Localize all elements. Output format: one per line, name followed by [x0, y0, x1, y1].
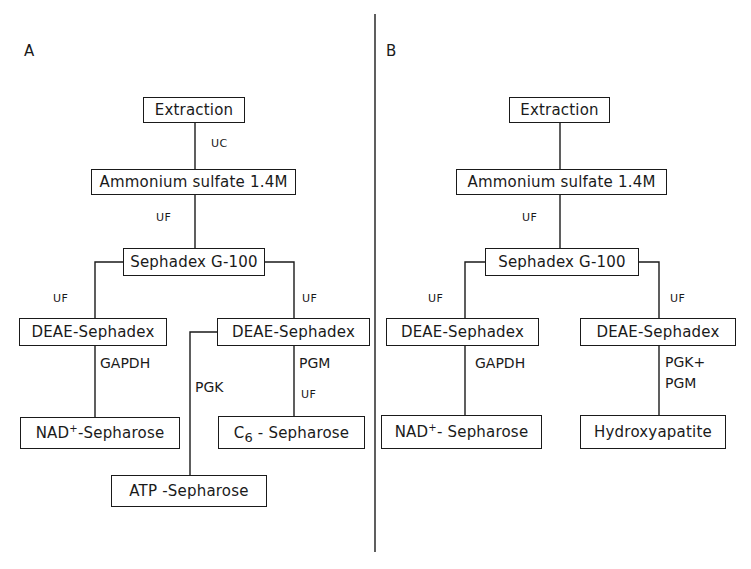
a-pgk-label: PGK [195, 379, 223, 396]
b-uf-right-label: UF [670, 292, 685, 305]
b-uf-main-label: UF [522, 211, 537, 224]
a-uf-main-label: UF [156, 211, 171, 224]
b-nad-sepharose-label: NAD+- Sepharose [395, 423, 529, 441]
b-deae-sephadex-left-label: DEAE-Sephadex [401, 323, 524, 341]
a-atp-sepharose-box: ATP -Sepharose [111, 475, 267, 507]
b-hydroxyapatite-box: Hydroxyapatite [580, 415, 726, 449]
b-extraction-label: Extraction [520, 101, 599, 119]
b-ammonium-sulfate-box: Ammonium sulfate 1.4M [456, 169, 667, 195]
a-c6-sepharose-box: C6 - Sepharose [218, 416, 365, 449]
b-nad-sepharose-box: NAD+- Sepharose [381, 415, 542, 449]
a-deae-sephadex-left-label: DEAE-Sephadex [31, 323, 154, 341]
b-uf-left-label: UF [428, 292, 443, 305]
a-gapdh-label: GAPDH [100, 355, 150, 372]
a-nad-sepharose-box: NAD+-Sepharose [20, 417, 180, 449]
panel-a-letter: A [24, 42, 34, 60]
b-pgk-label: PGK+ [665, 354, 705, 371]
a-deae-sephadex-right-box: DEAE-Sephadex [217, 318, 370, 346]
b-hydroxyapatite-label: Hydroxyapatite [594, 423, 712, 441]
b-deae-sephadex-right-label: DEAE-Sephadex [596, 323, 719, 341]
a-ammonium-sulfate-box: Ammonium sulfate 1.4M [91, 169, 296, 195]
a-sephadex-g100-label: Sephadex G-100 [130, 253, 258, 271]
b-sephadex-g100-label: Sephadex G-100 [498, 253, 626, 271]
a-sephadex-g100-box: Sephadex G-100 [123, 248, 265, 276]
a-deae-sephadex-left-box: DEAE-Sephadex [19, 318, 167, 346]
panel-b-letter: B [386, 42, 396, 60]
purification-scheme-diagram: A Extraction UC Ammonium sulfate 1.4M UF… [0, 0, 751, 569]
a-pgm-label: PGM [299, 355, 330, 372]
a-uc-label: UC [211, 137, 228, 150]
b-gapdh-label: GAPDH [475, 355, 525, 372]
a-uf-left-label: UF [53, 292, 68, 305]
b-pgm-label: PGM [665, 375, 696, 392]
b-deae-sephadex-left-box: DEAE-Sephadex [386, 318, 539, 346]
a-extraction-label: Extraction [155, 101, 234, 119]
a-nad-sepharose-label: NAD+-Sepharose [36, 424, 165, 442]
a-c6-sepharose-label: C6 - Sepharose [234, 424, 350, 442]
b-sephadex-g100-box: Sephadex G-100 [485, 248, 639, 276]
a-atp-sepharose-label: ATP -Sepharose [129, 482, 248, 500]
a-uf-pgm-label: UF [301, 388, 316, 401]
b-extraction-box: Extraction [509, 97, 610, 123]
b-deae-sephadex-right-box: DEAE-Sephadex [580, 318, 736, 346]
a-extraction-box: Extraction [143, 97, 245, 123]
b-ammonium-sulfate-label: Ammonium sulfate 1.4M [467, 173, 655, 191]
a-uf-right-label: UF [302, 292, 317, 305]
a-ammonium-sulfate-label: Ammonium sulfate 1.4M [99, 173, 287, 191]
a-deae-sephadex-right-label: DEAE-Sephadex [232, 323, 355, 341]
